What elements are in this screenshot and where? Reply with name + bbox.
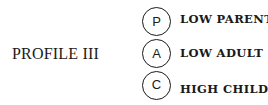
child-label: HIGH CHILD [180, 82, 268, 96]
child-letter: C [142, 70, 171, 99]
parent-label: LOW PARENT [180, 12, 268, 26]
parent-letter: P [142, 7, 171, 36]
profile-title: PROFILE III [12, 45, 99, 63]
adult-letter: A [142, 39, 171, 68]
adult-label: LOW ADULT [180, 46, 263, 60]
